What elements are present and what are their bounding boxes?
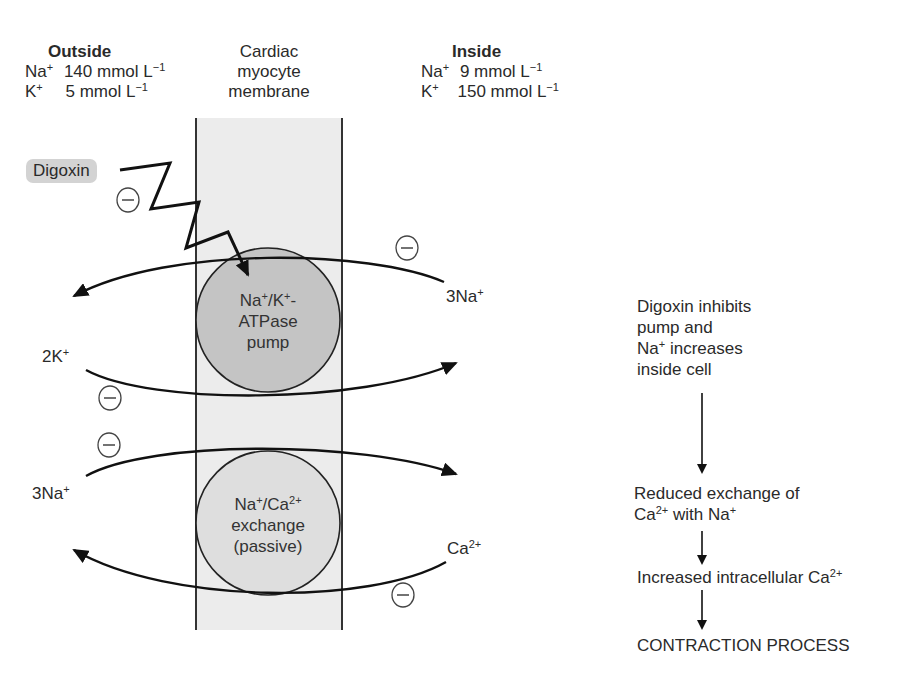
digoxin-badge[interactable]: Digoxin [26,159,97,183]
outside-na-row: Na+ 140 mmol L−1 [25,62,165,82]
flow-step-3: Increased intracellular Ca2+ [637,568,842,588]
inside-na-row: Na+ 9 mmol L−1 [421,62,542,82]
pump-label: Na+/K+- ATPase pump [208,290,328,353]
flow-step-4: CONTRACTION PROCESS [637,636,850,656]
outside-heading: Outside [48,42,111,62]
inside-heading: Inside [452,42,501,62]
label-pump-3na: 3Na+ [446,287,484,307]
inhibit-icon-digoxin [117,188,139,212]
label-exchanger-ca: Ca2+ [447,539,481,559]
exchanger-label: Na+/Ca2+ exchange (passive) [208,494,328,557]
label-pump-2k: 2K+ [42,347,69,367]
flow-step-2: Reduced exchange of Ca2+ with Na+ [634,483,799,525]
inside-k-row: K+ 150 mmol L−1 [421,82,559,102]
inhibit-icon-pump-na [396,236,418,260]
label-exchanger-3na: 3Na+ [32,484,70,504]
inhibit-icon-exchanger-na [98,433,120,457]
inhibit-icon-exchanger-ca [392,583,414,607]
membrane-label: Cardiac myocyte membrane [209,42,329,102]
inhibit-icon-pump-k [99,386,121,410]
flow-step-1: Digoxin inhibits pump and Na+ increases … [637,296,751,380]
outside-k-row: K+ 5 mmol L−1 [25,82,148,102]
